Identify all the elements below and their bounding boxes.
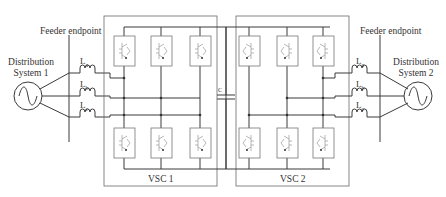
inductor-lc-icon (69, 109, 200, 117)
inductor-label-lb: Lb (80, 80, 89, 91)
distribution-system-1-label: Distribution System 1 (6, 58, 56, 78)
inductor-lb-icon (69, 88, 200, 98)
ac-source-1-icon (14, 82, 42, 110)
ds1-line2: System 1 (6, 69, 56, 79)
igbt-module-icon (313, 128, 334, 158)
inductor-label-lc: Lc (80, 101, 88, 112)
feeder-endpoint-label-right: Feeder endpoint (360, 27, 421, 37)
vsc1-label: VSC 1 (148, 175, 174, 185)
distribution-system-2-label: Distribution System 2 (390, 58, 442, 78)
inductor-la-icon (69, 65, 123, 78)
feeder-endpoint-label-left: Feeder endpoint (40, 27, 101, 37)
igbt-module-icon (114, 36, 135, 66)
igbt-module-icon (239, 36, 260, 66)
igbt-module-icon (114, 128, 135, 158)
inductor-label-rc: Lc (356, 101, 364, 112)
igbt-module-icon (313, 36, 334, 66)
ds2-line2: System 2 (390, 69, 442, 79)
inductor-label-ra: La (356, 57, 364, 68)
igbt-module-icon (151, 36, 172, 66)
capacitor-label: C (218, 87, 222, 93)
igbt-module-icon (190, 128, 211, 158)
ds2-line1: Distribution (390, 58, 442, 68)
ac-source-2-icon (404, 82, 432, 110)
inductor-label-rb: Lb (356, 80, 365, 91)
igbt-module-icon (239, 128, 260, 158)
igbt-module-icon (190, 36, 211, 66)
ds1-line1: Distribution (6, 58, 56, 68)
igbt-module-icon (277, 36, 298, 66)
igbt-module-icon (277, 128, 298, 158)
vsc2-label: VSC 2 (280, 175, 306, 185)
igbt-module-icon (151, 128, 172, 158)
inductor-label-la: La (80, 57, 88, 68)
